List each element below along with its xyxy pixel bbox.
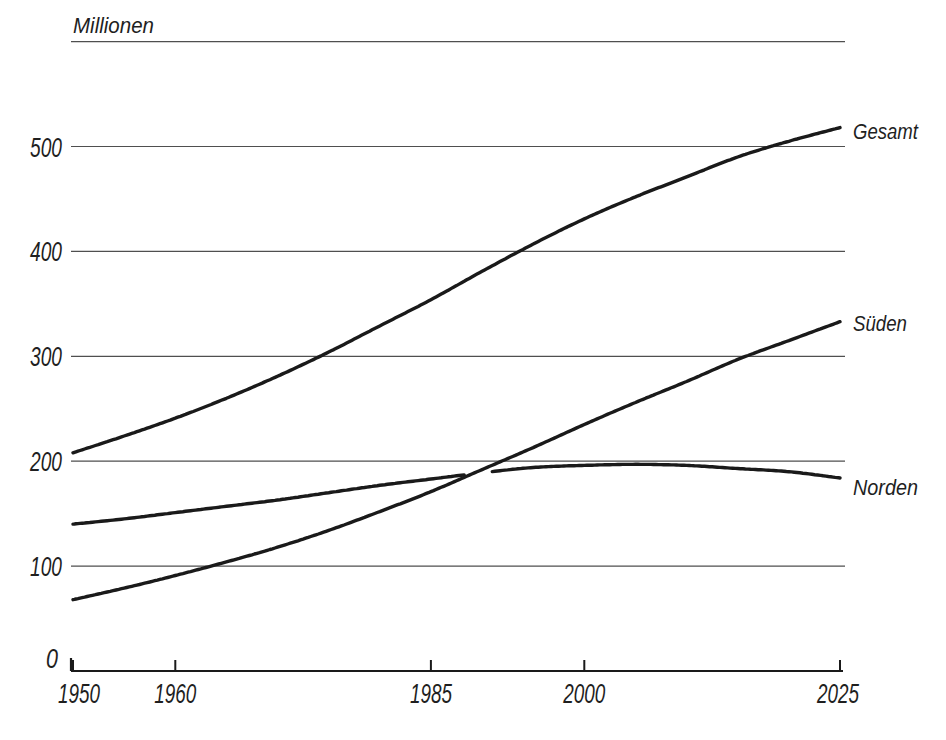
gridlines-layer [71,42,845,567]
y-tick-label-200: 200 [29,447,62,477]
y-tick-label-400: 400 [30,237,62,267]
x-tick-label-1960: 1960 [154,679,196,709]
y-tick-label-0: 0 [46,644,58,674]
x-axis-layer [71,658,843,671]
series-line-norden-right [492,464,840,478]
y-tick-label-500: 500 [30,133,62,163]
x-tick-label-2000: 2000 [563,679,606,709]
y-tick-label-300: 300 [30,342,62,372]
y-tick-label-100: 100 [30,552,62,582]
axis-labels-layer: 010020030040050019501960198520002025Gesa… [29,119,918,709]
population-line-chart: 010020030040050019501960198520002025Gesa… [0,0,946,740]
series-line-gesamt [73,128,840,453]
series-label-gesamt: Gesamt [853,119,919,144]
scanned-chart-page: 010020030040050019501960198520002025Gesa… [0,0,946,740]
series-curves-layer [73,128,840,600]
series-line-norden-left [73,475,464,524]
x-tick-label-1950: 1950 [58,679,100,709]
series-label-norden: Norden [853,475,918,500]
y-unit-label: Millionen [73,13,154,38]
series-label-sueden: Süden [853,311,907,336]
x-tick-label-1985: 1985 [410,679,453,709]
x-tick-label-2025: 2025 [816,679,859,709]
